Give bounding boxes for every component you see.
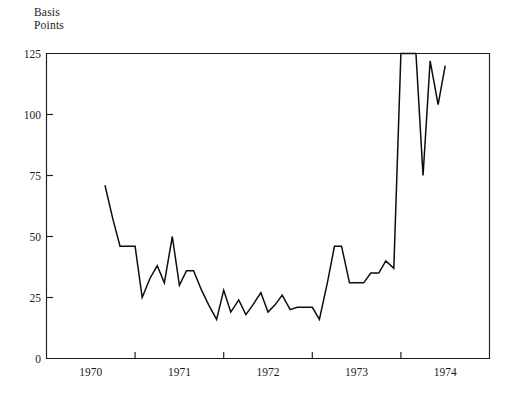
y-tick-label: 0 [35,353,41,365]
chart-figure: Basis Points 0255075100125 1970197119721… [0,0,512,396]
x-axis-ticks: 19701971197219731974 [79,352,457,378]
y-tick-label: 25 [30,292,42,304]
y-tick-label: 100 [24,109,42,121]
x-tick-label: 1970 [79,366,102,378]
series-line-basis-points [105,54,445,320]
x-tick-label: 1974 [434,366,457,378]
x-tick-label: 1972 [257,366,280,378]
line-chart-plot: 0255075100125 19701971197219731974 [0,0,512,396]
x-tick-label: 1973 [345,366,368,378]
y-tick-label: 125 [24,48,42,60]
y-axis-ticks: 0255075100125 [24,48,53,365]
y-tick-label: 75 [30,170,42,182]
y-tick-label: 50 [30,231,42,243]
x-tick-label: 1971 [168,366,191,378]
